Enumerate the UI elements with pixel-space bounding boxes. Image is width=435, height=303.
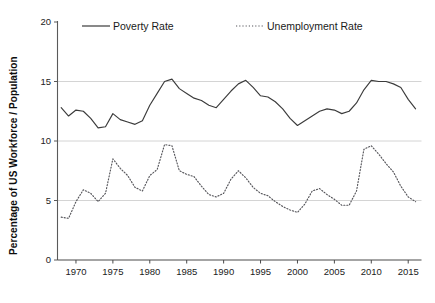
legend-label-poverty-rate: Poverty Rate [113,20,174,32]
y-tick-label-10: 10 [40,135,51,146]
x-tick-label-1975: 1975 [102,266,123,277]
x-tick-label-1990: 1990 [213,266,234,277]
x-tick-label-2005: 2005 [324,266,345,277]
chart-container: 05101520 1970197519801985199019952000200… [0,0,435,303]
legend-label-unemployment-rate: Unemployment Rate [267,20,363,32]
y-axis-title: Percentage of US Workforce / Population [8,56,19,255]
y-tick-label-5: 5 [46,195,51,206]
y-axis-title-text: Percentage of US Workforce / Population [8,56,19,255]
y-tick-label-0: 0 [46,254,51,265]
poverty-unemployment-line-chart: 05101520 1970197519801985199019952000200… [0,0,435,303]
x-tick-label-2000: 2000 [287,266,308,277]
y-tick-label-15: 15 [40,76,51,87]
x-tick-label-1995: 1995 [250,266,271,277]
y-tick-label-20: 20 [40,16,51,27]
x-tick-label-1985: 1985 [176,266,197,277]
x-tick-label-2010: 2010 [361,266,382,277]
chart-background [0,0,435,303]
x-tick-label-1970: 1970 [65,266,86,277]
x-tick-label-2015: 2015 [398,266,419,277]
x-tick-label-1980: 1980 [139,266,160,277]
